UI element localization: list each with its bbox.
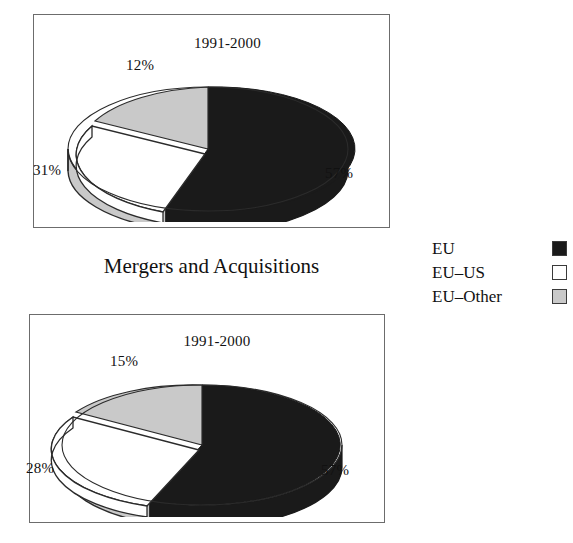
- pie-label-eu-us-1: 31%: [33, 162, 61, 179]
- legend-item-eu: EU: [432, 236, 567, 260]
- pie-chart-panel-1: 1991-2000: [33, 14, 390, 228]
- section-caption: Mergers and Acquisitions: [33, 254, 390, 279]
- pie-label-eu-us-2: 28%: [26, 460, 54, 477]
- chart-title-1: 1991-2000: [34, 35, 389, 52]
- pie-label-eu-other-2: 15%: [110, 353, 138, 370]
- pie-label-eu-2: 57%: [321, 462, 349, 479]
- legend-swatch-eu-us: [552, 265, 567, 280]
- legend-item-eu-other: EU–Other: [432, 284, 567, 308]
- legend-label-eu: EU: [432, 240, 455, 257]
- pie-svg-1: [48, 57, 368, 222]
- pie-svg-2: [42, 355, 362, 517]
- legend-swatch-eu-other: [552, 289, 567, 304]
- chart-title-2: 1991-2000: [30, 333, 384, 350]
- pie-label-eu-1: 57%: [325, 165, 353, 182]
- pie-label-eu-other-1: 12%: [126, 57, 154, 74]
- pie-graphic-2: [42, 355, 362, 517]
- legend: EU EU–US EU–Other: [432, 236, 567, 308]
- legend-item-eu-us: EU–US: [432, 260, 567, 284]
- pie-graphic-1: [48, 57, 368, 222]
- legend-label-eu-us: EU–US: [432, 264, 485, 281]
- legend-swatch-eu: [552, 241, 567, 256]
- pie-chart-panel-2: 1991-2000 15% 28% 57%: [29, 314, 385, 523]
- legend-label-eu-other: EU–Other: [432, 288, 502, 305]
